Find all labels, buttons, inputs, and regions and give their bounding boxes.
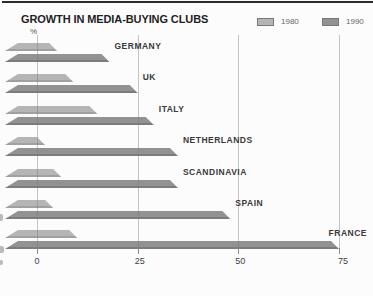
plot-area: 0255075GERMANYUKITALYNETHERLANDSSCANDINA… <box>0 0 373 296</box>
country-label-italy: ITALY <box>159 104 185 114</box>
bar-1980-france <box>5 230 77 238</box>
bar-1980-italy <box>5 106 97 114</box>
country-label-france: FRANCE <box>329 228 367 238</box>
bar-1980-scandinavia <box>5 169 61 177</box>
gridline-75 <box>339 35 340 248</box>
x-axis-tick-0 <box>37 248 38 254</box>
bar-1990-netherlands <box>5 148 178 156</box>
x-axis-tick-75 <box>339 248 340 254</box>
page-edge-artifact <box>0 246 4 253</box>
page-edge-artifact <box>0 260 3 265</box>
bar-1980-germany <box>5 43 57 51</box>
bar-1990-italy <box>5 117 154 125</box>
bar-1990-scandinavia <box>5 180 178 188</box>
bar-1980-netherlands <box>5 137 45 145</box>
bar-1980-uk <box>5 74 73 82</box>
country-label-scandinavia: SCANDINAVIA <box>183 167 247 177</box>
gridline-25 <box>138 35 139 248</box>
scanned-chart-page: GROWTH IN MEDIA-BUYING CLUBS % 1980 1990… <box>0 0 373 296</box>
bar-1980-spain <box>5 200 53 208</box>
country-label-uk: UK <box>143 72 156 82</box>
x-axis-tick-label-50: 50 <box>235 256 245 266</box>
country-label-spain: SPAIN <box>235 198 263 208</box>
x-axis-tick-50 <box>238 248 239 254</box>
bar-1990-germany <box>5 54 109 62</box>
country-label-germany: GERMANY <box>114 41 161 51</box>
x-axis-tick-label-0: 0 <box>34 256 39 266</box>
gridline-0 <box>37 35 38 248</box>
x-axis-tick-label-75: 75 <box>338 256 348 266</box>
x-axis-tick-25 <box>138 248 139 254</box>
page-edge-artifact <box>0 214 3 221</box>
bar-1990-spain <box>5 211 230 219</box>
x-axis-tick-label-25: 25 <box>135 256 145 266</box>
bar-1990-france <box>5 241 339 249</box>
country-label-netherlands: NETHERLANDS <box>183 135 253 145</box>
bar-1990-uk <box>5 85 138 93</box>
